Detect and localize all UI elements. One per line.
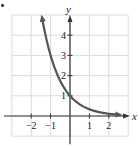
- x-axis-label: x: [131, 110, 137, 122]
- y-tick-label: 2: [61, 70, 66, 81]
- bullet-marker: [1, 4, 4, 7]
- y-tick-label: 4: [61, 30, 66, 41]
- y-tick-label: 3: [61, 50, 66, 61]
- x-tick-label: −1: [45, 120, 56, 131]
- curve-arrowheads: [40, 15, 123, 118]
- x-tick-label: 1: [87, 120, 92, 131]
- y-tick-label: 1: [61, 90, 66, 101]
- exponential-graph: −2−1121234 x y: [0, 0, 139, 148]
- curve-arrow-up-icon: [40, 15, 46, 22]
- x-axis-arrow-icon: [123, 114, 130, 119]
- y-axis-label: y: [65, 3, 71, 15]
- y-axis-arrow-icon: [68, 15, 73, 22]
- x-tick-label: 2: [106, 120, 111, 131]
- x-tick-label: −2: [26, 120, 37, 131]
